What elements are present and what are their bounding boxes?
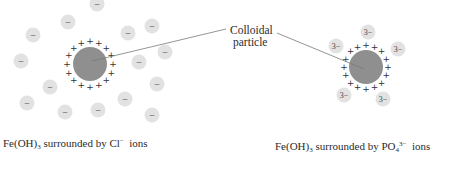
- ion-charge-label: −: [24, 98, 30, 109]
- ion-charge-label: −: [149, 21, 155, 32]
- ion-charge-label: −: [30, 30, 36, 41]
- positive-charge: +: [362, 40, 370, 50]
- ion-charge-label: 3−: [332, 42, 341, 51]
- caption-formula: Fe(OH): [3, 137, 37, 149]
- ion-charge-label: −: [62, 107, 68, 118]
- ion: −: [132, 55, 147, 70]
- ion: 3−: [391, 42, 406, 57]
- ion-charge-label: −: [47, 82, 53, 93]
- ion: −: [145, 19, 160, 34]
- ion: −: [61, 15, 76, 30]
- positive-charge: +: [354, 82, 362, 92]
- ion: −: [26, 28, 41, 43]
- ion-charge-label: −: [18, 56, 24, 67]
- ion-charge-label: 3−: [379, 95, 388, 104]
- ion: −: [14, 54, 29, 69]
- ion-charge-label: −: [65, 17, 71, 28]
- ion-charge-label: −: [125, 28, 131, 39]
- positive-charge: +: [95, 80, 103, 90]
- ion: −: [91, 103, 106, 118]
- ion-charge-label: −: [136, 57, 142, 68]
- caption-text: surrounded by Cl: [41, 137, 120, 149]
- ion: −: [158, 45, 173, 60]
- right-caption: Fe(OH)3 surrounded by PO43− ions: [275, 140, 430, 154]
- ion: −: [118, 92, 133, 107]
- ion: 3−: [337, 88, 352, 103]
- positive-charge: +: [63, 59, 71, 69]
- ion: −: [145, 108, 160, 123]
- ion-charge-label: 3−: [364, 28, 373, 37]
- ion-charge-label: 3−: [394, 45, 403, 54]
- positive-charge: +: [354, 42, 362, 52]
- caption-suffix: ions: [124, 137, 148, 149]
- positive-charge: +: [95, 38, 103, 48]
- caption-text: surrounded by PO: [313, 140, 396, 152]
- colloidal-particle-label: Colloidal particle: [230, 24, 273, 48]
- left-caption: Fe(OH)3 surrounded by Cl− ions: [3, 137, 148, 151]
- ion: −: [121, 26, 136, 41]
- caption-suffix: ions: [406, 140, 430, 152]
- ion-charge-label: −: [149, 110, 155, 121]
- positive-charge: +: [86, 82, 94, 92]
- ion-charge-label: −: [122, 94, 128, 105]
- ion-charge-label: −: [94, 0, 100, 10]
- positive-charge: +: [70, 43, 78, 53]
- ion: 3−: [376, 92, 391, 107]
- ion-charge-label: −: [154, 79, 160, 90]
- label-line-1: Colloidal: [230, 24, 273, 36]
- positive-charge: +: [77, 80, 85, 90]
- ion: −: [58, 105, 73, 120]
- ion-charge-label: −: [162, 47, 168, 58]
- ion: −: [90, 0, 105, 12]
- caption-formula: Fe(OH): [275, 140, 309, 152]
- positive-charge: +: [371, 82, 379, 92]
- right-colloidal-particle: ++++++++++++++++: [340, 40, 392, 94]
- positive-charge: +: [65, 68, 73, 78]
- positive-charge: +: [378, 78, 386, 88]
- positive-charge: +: [86, 36, 94, 46]
- label-line-2: particle: [230, 36, 273, 48]
- positive-charge: +: [362, 84, 370, 94]
- ion: 3−: [329, 39, 344, 54]
- positive-charge: +: [102, 75, 110, 85]
- ion-charge-label: 3−: [340, 91, 349, 100]
- ion: −: [20, 96, 35, 111]
- left-colloidal-particle: ++++++++++++++++: [63, 36, 117, 92]
- ion: −: [150, 77, 165, 92]
- ion: −: [43, 80, 58, 95]
- ion: 3−: [361, 25, 376, 40]
- positive-charge: +: [77, 38, 85, 48]
- ion-charge-label: −: [95, 105, 101, 116]
